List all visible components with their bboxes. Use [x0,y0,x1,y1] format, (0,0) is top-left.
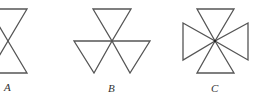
figure-a: A [0,9,27,93]
figure-c-top-triangle [197,9,234,41]
figure-b-label: B [108,82,115,94]
figure-c-bottom-triangle [197,41,234,73]
figure-c: C [183,9,248,94]
figure-c-right-triangle [215,23,248,60]
figure-b: B [74,9,150,94]
figures-diagram: A B C [0,0,261,104]
figure-a-bottom-triangle [0,41,27,73]
figure-c-label: C [211,82,219,94]
figure-b-top-triangle [93,9,131,41]
figure-a-top-triangle [0,9,27,41]
figure-b-left-triangle [74,41,112,73]
figure-c-center-dot [214,40,217,43]
figure-a-label: A [3,81,11,93]
figure-b-right-triangle [112,41,150,73]
figure-c-left-triangle [183,23,215,60]
